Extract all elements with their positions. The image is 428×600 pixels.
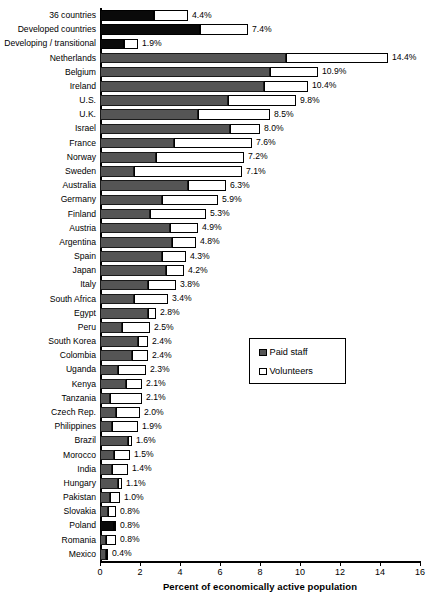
bar-segment-paid-staff — [100, 478, 118, 489]
bar-segment-volunteers — [230, 124, 260, 135]
bar-segment-paid-staff — [100, 53, 286, 64]
category-label: Austria — [0, 222, 96, 234]
bar-value-label: 7.6% — [256, 137, 276, 148]
category-label: Poland — [0, 519, 96, 531]
bar-segment-paid-staff — [100, 124, 230, 135]
category-label: Colombia — [0, 349, 96, 361]
legend-item-volunteers: Volunteers — [259, 366, 313, 377]
bar-segment-paid-staff — [100, 109, 198, 120]
bar-segment-volunteers — [150, 209, 206, 220]
bar-value-label: 4.3% — [190, 251, 210, 262]
bar-segment-paid-staff — [100, 223, 170, 234]
stacked-bar — [100, 209, 206, 220]
stacked-bar — [100, 265, 184, 276]
bar-segment-paid-staff — [100, 180, 188, 191]
stacked-bar — [100, 237, 196, 248]
bar-value-label: 1.0% — [124, 492, 144, 503]
category-label: Developing / transitional — [0, 37, 96, 49]
stacked-bar — [100, 492, 120, 503]
category-label: Mexico — [0, 548, 96, 560]
bar-value-label: 4.2% — [188, 265, 208, 276]
bar-segment-paid-staff — [100, 39, 124, 50]
bar-segment-paid-staff — [100, 407, 116, 418]
category-label: Pakistan — [0, 491, 96, 503]
category-label: U.S. — [0, 94, 96, 106]
stacked-bar — [100, 294, 168, 305]
bar-value-label: 0.4% — [112, 548, 132, 559]
bar-value-label: 0.8% — [120, 520, 140, 531]
bar-segment-volunteers — [112, 464, 128, 475]
bar-segment-volunteers — [138, 336, 148, 347]
bar-segment-volunteers — [118, 478, 122, 489]
bar-value-label: 1.9% — [142, 421, 162, 432]
bar-value-label: 8.0% — [264, 123, 284, 134]
bar-segment-volunteers — [126, 379, 142, 390]
stacked-bar — [100, 421, 138, 432]
bar-value-label: 7.1% — [246, 166, 266, 177]
legend: Paid staff Volunteers — [249, 338, 346, 384]
x-tick-label: 14 — [370, 567, 390, 577]
stacked-bar — [100, 53, 388, 64]
category-label: Kenya — [0, 378, 96, 390]
bar-segment-volunteers — [200, 24, 248, 35]
bar-segment-volunteers — [106, 549, 108, 560]
stacked-bar — [100, 308, 156, 319]
bar-segment-paid-staff — [100, 67, 270, 78]
bar-segment-volunteers — [166, 265, 184, 276]
stacked-bar — [100, 81, 308, 92]
stacked-bar — [100, 521, 116, 532]
category-label: Morocco — [0, 449, 96, 461]
bar-value-label: 4.8% — [200, 236, 220, 247]
stacked-bar — [100, 152, 244, 163]
bar-segment-volunteers — [114, 450, 130, 461]
bar-segment-volunteers — [286, 53, 388, 64]
category-label: Finland — [0, 208, 96, 220]
bar-segment-paid-staff — [100, 24, 200, 35]
bar-segment-paid-staff — [100, 195, 162, 206]
bar-value-label: 9.8% — [300, 95, 320, 106]
stacked-bar — [100, 109, 270, 120]
bar-segment-paid-staff — [100, 237, 172, 248]
category-label: Japan — [0, 264, 96, 276]
stacked-bar — [100, 407, 140, 418]
legend-label-volunteers: Volunteers — [270, 366, 313, 376]
x-tick-label: 16 — [410, 567, 428, 577]
bar-segment-volunteers — [156, 152, 244, 163]
bar-value-label: 7.4% — [252, 24, 272, 35]
bar-chart: 0246810121416 36 countries4.4%Developed … — [0, 0, 428, 600]
bar-value-label: 1.5% — [134, 449, 154, 460]
category-label: Spain — [0, 250, 96, 262]
bar-value-label: 2.4% — [152, 350, 172, 361]
category-label: Slovakia — [0, 505, 96, 517]
legend-swatch-paid-staff — [259, 349, 267, 357]
category-label: Belgium — [0, 66, 96, 78]
bar-segment-paid-staff — [100, 280, 148, 291]
bar-segment-volunteers — [162, 251, 186, 262]
bar-segment-volunteers — [148, 280, 176, 291]
bar-value-label: 2.4% — [152, 336, 172, 347]
stacked-bar — [100, 138, 252, 149]
bar-value-label: 1.6% — [136, 435, 156, 446]
stacked-bar — [100, 322, 150, 333]
stacked-bar — [100, 223, 198, 234]
category-label: Germany — [0, 193, 96, 205]
stacked-bar — [100, 67, 318, 78]
x-tick-label: 6 — [210, 567, 230, 577]
category-label: Netherlands — [0, 52, 96, 64]
bar-value-label: 4.9% — [202, 222, 222, 233]
bar-value-label: 0.8% — [120, 534, 140, 545]
bar-segment-volunteers — [134, 294, 168, 305]
category-label: Australia — [0, 179, 96, 191]
category-label: Philippines — [0, 420, 96, 432]
bar-value-label: 10.4% — [312, 80, 336, 91]
category-label: France — [0, 137, 96, 149]
bar-segment-paid-staff — [100, 251, 162, 262]
category-label: 36 countries — [0, 9, 96, 21]
bar-segment-volunteers — [124, 39, 138, 50]
stacked-bar — [100, 450, 130, 461]
bar-segment-volunteers — [188, 180, 226, 191]
bar-segment-volunteers — [270, 67, 318, 78]
x-tick-label: 4 — [170, 567, 190, 577]
bar-value-label: 2.5% — [154, 322, 174, 333]
bar-segment-paid-staff — [100, 322, 122, 333]
